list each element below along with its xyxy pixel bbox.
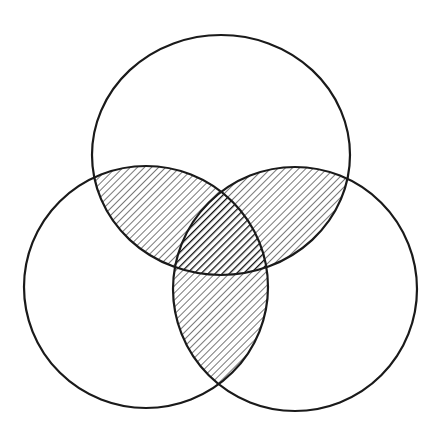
venn-diagram	[0, 0, 440, 429]
